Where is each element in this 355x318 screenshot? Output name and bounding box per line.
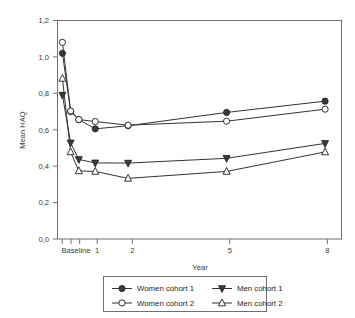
y-axis-title: Mean HAQ: [18, 111, 27, 149]
legend-item-men-cohort-1[interactable]: Men cohort 1: [212, 284, 283, 293]
data-point-3-1: [67, 148, 74, 155]
series-line: [62, 42, 325, 125]
x-axis-title: Year: [192, 263, 208, 272]
x-axis-labels: Baseline 1 2 5 8: [61, 246, 329, 255]
series-line: [62, 53, 325, 129]
data-point-2-2: [76, 116, 82, 122]
data-point-3-0: [59, 74, 66, 81]
series-layer: [59, 39, 329, 181]
y-tick-label-0-6: 0,6: [38, 126, 49, 135]
series-men-cohort-2: [59, 74, 329, 181]
data-point-2-1: [68, 108, 74, 114]
x-tick-label-8: 8: [325, 246, 329, 255]
data-point-0-0: [59, 50, 65, 56]
y-tick-label-1-0: 1,0: [38, 53, 49, 62]
y-axis-labels: 1,2 1,0 0,8 0,6 0,4 0,2 0,0: [38, 16, 49, 244]
series-women-cohort-2: [59, 39, 328, 128]
y-tick-label-0-2: 0,2: [38, 198, 49, 207]
series-women-cohort-1: [59, 50, 328, 132]
y-tick-label-0-0: 0,0: [38, 235, 49, 244]
legend-label: Men cohort 1: [237, 284, 283, 293]
data-point-0-6: [322, 98, 328, 104]
x-tick-label-5: 5: [228, 246, 232, 255]
x-tick-label-2: 2: [130, 246, 134, 255]
data-point-2-6: [322, 106, 328, 112]
x-tick-label-baseline: Baseline: [61, 246, 90, 255]
data-point-2-4: [125, 122, 131, 128]
y-tick-label-1-2: 1,2: [38, 16, 49, 25]
data-point-3-3: [92, 167, 99, 174]
legend-marker-open-circle-icon: [119, 300, 125, 306]
plot-frame: [58, 21, 342, 240]
data-point-1-1: [67, 140, 74, 147]
x-tick-label-1: 1: [95, 246, 99, 255]
chart-container: 1,2 1,0 0,8 0,6 0,4 0,2 0,0 Mean HAQ Bas…: [0, 0, 355, 318]
series-men-cohort-1: [59, 92, 329, 167]
data-point-3-6: [322, 148, 329, 155]
data-point-2-5: [223, 118, 229, 124]
x-axis-tickmarks: [62, 239, 327, 244]
legend: Women cohort 1Men cohort 1Women cohort 2…: [104, 277, 283, 312]
haq-line-chart: 1,2 1,0 0,8 0,6 0,4 0,2 0,0 Mean HAQ Bas…: [0, 0, 355, 318]
data-point-1-3: [92, 160, 99, 167]
y-tick-label-0-8: 0,8: [38, 89, 49, 98]
data-point-2-3: [92, 118, 98, 124]
legend-label: Women cohort 2: [137, 299, 194, 308]
data-point-2-0: [59, 39, 65, 45]
data-point-0-3: [92, 126, 98, 132]
data-point-1-4: [125, 160, 132, 167]
data-point-0-5: [223, 109, 229, 115]
legend-marker-filled-circle-icon: [119, 285, 125, 291]
legend-label: Men cohort 2: [237, 299, 283, 308]
y-tick-label-0-4: 0,4: [38, 162, 49, 171]
y-axis-tickmarks: [53, 21, 58, 240]
data-point-3-2: [75, 167, 82, 174]
legend-label: Women cohort 1: [137, 284, 194, 293]
